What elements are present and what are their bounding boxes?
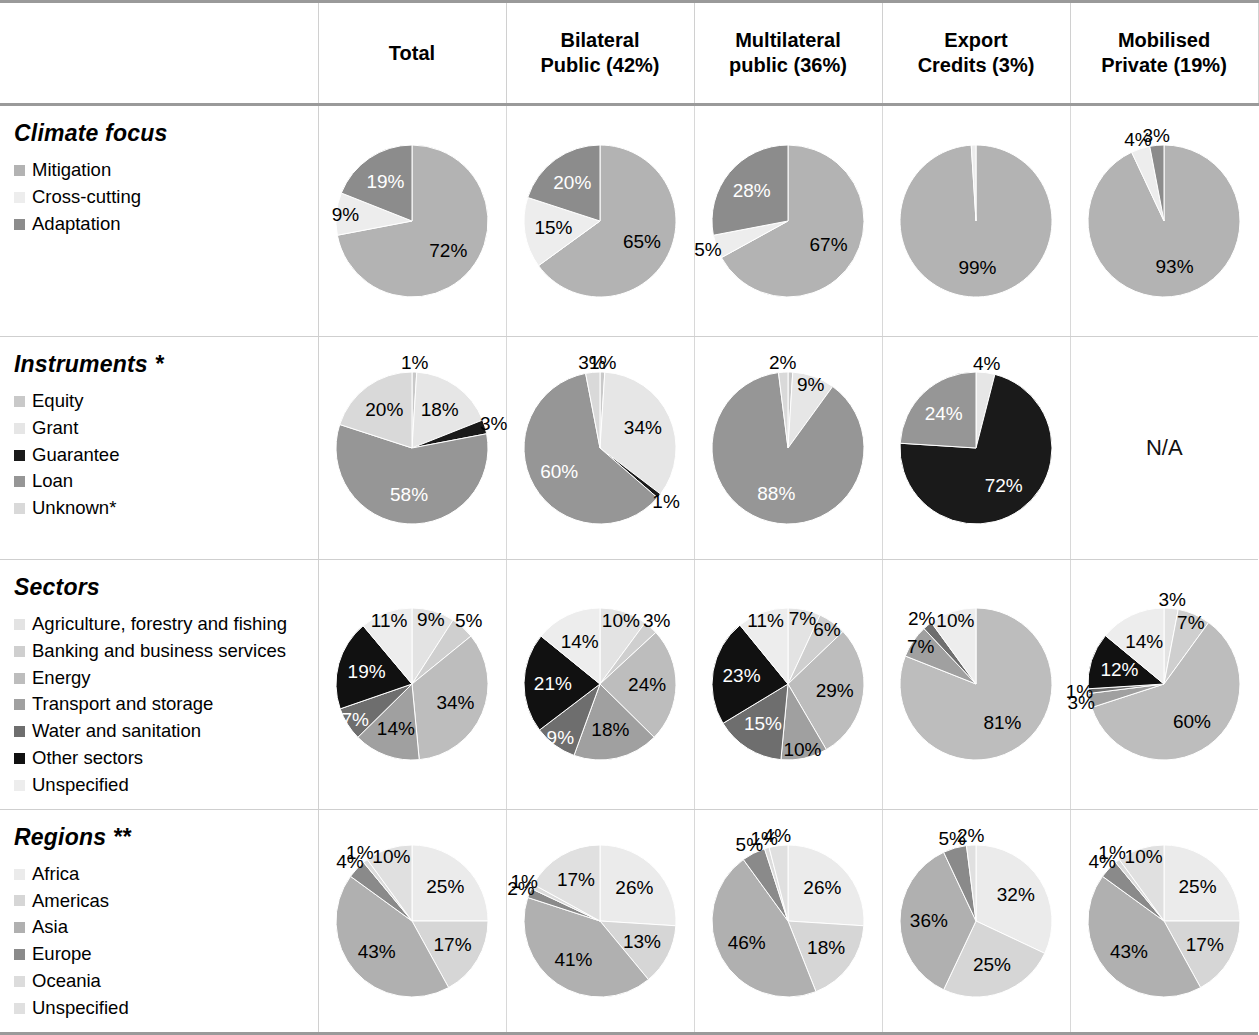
- legend-swatch-icon: [14, 699, 25, 710]
- legend-item: Unknown*: [14, 495, 308, 522]
- legend-item: Equity: [14, 388, 308, 415]
- legend-item: Europe: [14, 941, 308, 968]
- legend-item-label: Oceania: [32, 968, 101, 995]
- legend-swatch-icon: [14, 949, 25, 960]
- legend-item-label: Unknown*: [32, 495, 116, 522]
- pie-chart: 65%15%20%: [521, 142, 679, 300]
- pie-chart-container: 67%5%28%: [695, 106, 882, 336]
- pie-chart-container: 10%3%24%18%9%21%14%: [507, 560, 694, 809]
- row-title-regions: Regions **: [14, 824, 308, 851]
- pie-cell-instruments-mobilised: N/A: [1070, 337, 1258, 560]
- column-header-export-credits: Export Credits (3%): [882, 2, 1070, 105]
- column-header-total: Total: [318, 2, 506, 105]
- column-header-mobilised-line1: Mobilised: [1077, 28, 1252, 53]
- pie-chart-container: 9%88%2%: [695, 337, 882, 559]
- pie-chart-container: 9%5%34%14%7%19%11%: [319, 560, 506, 809]
- pie-svg: [521, 842, 679, 1000]
- row-title-climate-focus: Climate focus: [14, 120, 308, 147]
- legend-item: Energy: [14, 665, 308, 692]
- pie-cell-climate-multilateral: 67%5%28%: [694, 105, 882, 337]
- column-header-total-line1: Total: [325, 41, 500, 66]
- legend-item: Americas: [14, 888, 308, 915]
- legend-item: Other sectors: [14, 745, 308, 772]
- legend-swatch-icon: [14, 976, 25, 987]
- legend-item-label: Asia: [32, 914, 68, 941]
- legend-item-label: Other sectors: [32, 745, 143, 772]
- column-header-bilateral-line1: Bilateral: [513, 28, 688, 53]
- column-header-multilateral-public: Multilateral public (36%): [694, 2, 882, 105]
- pie-cell-sectors-total: 9%5%34%14%7%19%11%: [318, 560, 506, 810]
- pie-slice: [600, 845, 676, 926]
- column-header-export-line1: Export: [889, 28, 1064, 53]
- legend-swatch-icon: [14, 423, 25, 434]
- pie-chart: 3%7%60%3%1%12%14%: [1085, 605, 1243, 763]
- legend-item-label: Unspecified: [32, 772, 129, 799]
- legend-item: Guarantee: [14, 442, 308, 469]
- legend-item-label: Equity: [32, 388, 83, 415]
- pie-chart-container: 1%18%3%58%20%: [319, 337, 506, 559]
- pie-slice: [412, 845, 488, 921]
- legend-item: Africa: [14, 861, 308, 888]
- header-row: Total Bilateral Public (42%) Multilatera…: [0, 2, 1258, 105]
- legend-item-label: Agriculture, forestry and fishing: [32, 611, 287, 638]
- pie-cell-instruments-total: 1%18%3%58%20%: [318, 337, 506, 560]
- pie-chart: 1%34%1%60%3%: [521, 369, 679, 527]
- pie-svg: [897, 842, 1055, 1000]
- pie-chart-container: 26%13%41%2%1%17%: [507, 810, 694, 1032]
- legend-swatch-icon: [14, 922, 25, 933]
- table-header: Total Bilateral Public (42%) Multilatera…: [0, 2, 1258, 105]
- legend-instruments: EquityGrantGuaranteeLoanUnknown*: [14, 388, 308, 522]
- pie-chart-container: 93%4%3%: [1071, 106, 1259, 336]
- pie-chart: 9%5%34%14%7%19%11%: [333, 605, 491, 763]
- pie-chart: 81%7%2%10%: [897, 605, 1055, 763]
- pie-cell-climate-export: 99%: [882, 105, 1070, 337]
- legend-item-label: Unspecified: [32, 995, 129, 1022]
- table-row-sectors: Sectors Agriculture, forestry and fishin…: [0, 560, 1258, 810]
- legend-item-label: Grant: [32, 415, 78, 442]
- legend-swatch-icon: [14, 869, 25, 880]
- legend-item-label: Transport and storage: [32, 691, 213, 718]
- row-title-sectors: Sectors: [14, 574, 308, 601]
- pie-svg: [521, 142, 679, 300]
- pie-chart: 26%18%46%5%1%4%: [709, 842, 867, 1000]
- pie-chart-container: 26%18%46%5%1%4%: [695, 810, 882, 1032]
- legend-swatch-icon: [14, 673, 25, 684]
- pie-chart: 93%4%3%: [1085, 142, 1243, 300]
- legend-item: Unspecified: [14, 995, 308, 1022]
- pie-chart-container: 81%7%2%10%: [883, 560, 1070, 809]
- pie-slice: [712, 145, 788, 235]
- pie-chart-container: 25%17%43%4%1%10%: [1071, 810, 1259, 1032]
- legend-swatch-icon: [14, 646, 25, 657]
- pie-chart-container: 65%15%20%: [507, 106, 694, 336]
- legend-swatch-icon: [14, 450, 25, 461]
- pie-cell-climate-bilateral: 65%15%20%: [506, 105, 694, 337]
- pie-chart: 9%88%2%: [709, 369, 867, 527]
- legend-climate-focus: MitigationCross-cuttingAdaptation: [14, 157, 308, 237]
- pie-slice: [788, 845, 864, 926]
- pie-chart: 1%18%3%58%20%: [333, 369, 491, 527]
- column-header-mobilised-line2: Private (19%): [1077, 53, 1252, 78]
- table-row-regions: Regions ** AfricaAmericasAsiaEuropeOcean…: [0, 809, 1258, 1033]
- table-body: Climate focus MitigationCross-cuttingAda…: [0, 105, 1258, 1034]
- pie-slice: [1164, 845, 1240, 921]
- pie-slice: [900, 372, 976, 448]
- pie-cell-regions-total: 25%17%43%4%1%10%: [318, 809, 506, 1033]
- legend-swatch-icon: [14, 165, 25, 176]
- legend-sectors: Agriculture, forestry and fishingBanking…: [14, 611, 308, 799]
- legend-swatch-icon: [14, 895, 25, 906]
- legend-swatch-icon: [14, 619, 25, 630]
- pie-cell-instruments-multilateral: 9%88%2%: [694, 337, 882, 560]
- legend-item-label: Banking and business services: [32, 638, 286, 665]
- legend-item: Adaptation: [14, 211, 308, 238]
- legend-item: Oceania: [14, 968, 308, 995]
- pie-cell-instruments-export: 4%72%24%: [882, 337, 1070, 560]
- pie-chart: 25%17%43%4%1%10%: [1085, 842, 1243, 1000]
- pie-svg: [897, 605, 1055, 763]
- legend-item-label: Europe: [32, 941, 92, 968]
- row-label-cell-climate-focus: Climate focus MitigationCross-cuttingAda…: [0, 105, 318, 337]
- legend-swatch-icon: [14, 753, 25, 764]
- pie-chart-container: 72%9%19%: [319, 106, 506, 336]
- pie-svg: [521, 369, 679, 527]
- pie-cell-sectors-multilateral: 7%6%29%10%15%23%11%: [694, 560, 882, 810]
- pie-svg: [709, 369, 867, 527]
